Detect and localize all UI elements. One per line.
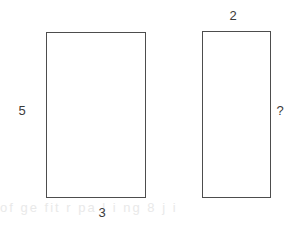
background-watermark: of ge fit r pa l i ng 8 j i <box>0 200 293 226</box>
left-rectangle-height-label: 5 <box>13 104 31 117</box>
right-rectangle-unknown-height-label: ? <box>272 104 288 117</box>
right-rectangle-width-label: 2 <box>220 9 246 22</box>
geometry-figure-canvas: of ge fit r pa l i ng 8 j i 5 3 2 ? <box>0 0 293 228</box>
right-rectangle <box>202 31 271 198</box>
left-rectangle <box>46 32 146 198</box>
left-rectangle-width-label: 3 <box>88 206 116 219</box>
